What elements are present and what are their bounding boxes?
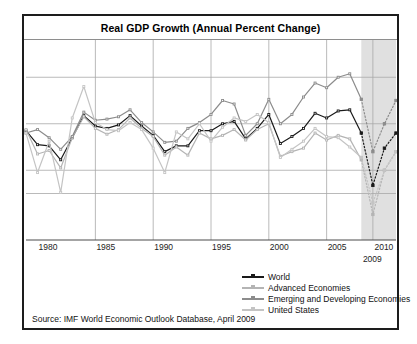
chart-legend: World Advanced Economies Emerging and De… — [242, 271, 400, 315]
legend-item-label: United States — [268, 305, 319, 315]
legend-item-emerging-developing-economies: Emerging and Developing Economies — [242, 293, 400, 304]
x-tick-1: 1985 — [96, 242, 115, 252]
page-title: Real GDP Growth (Annual Percent Change) — [101, 22, 321, 34]
x-tick-forecast-year: 2009 — [363, 254, 382, 264]
x-tick-4: 2000 — [270, 242, 289, 252]
legend-swatch-icon — [242, 272, 264, 281]
x-tick-0: 1980 — [39, 242, 58, 252]
legend-swatch-icon — [242, 305, 264, 314]
x-tick-2: 1990 — [154, 242, 173, 252]
x-tick-5: 2005 — [328, 242, 347, 252]
gdp-growth-line-chart — [24, 40, 397, 242]
x-axis-labels: 1980 1985 1990 1995 2000 2005 2010 2009 — [24, 242, 397, 272]
x-tick-3: 1995 — [212, 242, 231, 252]
chart-figure: Real GDP Growth (Annual Percent Change) … — [22, 14, 399, 330]
source-note: Source: IMF World Economic Outlook Datab… — [32, 314, 255, 324]
legend-item-advanced-economies: Advanced Economies — [242, 282, 400, 293]
legend-item-label: Advanced Economies — [268, 283, 350, 293]
legend-item-label: World — [268, 272, 290, 282]
x-tick-6: 2010 — [374, 242, 393, 252]
legend-swatch-icon — [242, 294, 264, 303]
legend-swatch-icon — [242, 283, 264, 292]
plot-area — [24, 40, 397, 242]
legend-item-world: World — [242, 271, 400, 282]
legend-item-united-states: United States — [242, 304, 400, 315]
legend-item-label: Emerging and Developing Economies — [268, 294, 410, 304]
chart-title-bar: Real GDP Growth (Annual Percent Change) — [24, 16, 397, 40]
